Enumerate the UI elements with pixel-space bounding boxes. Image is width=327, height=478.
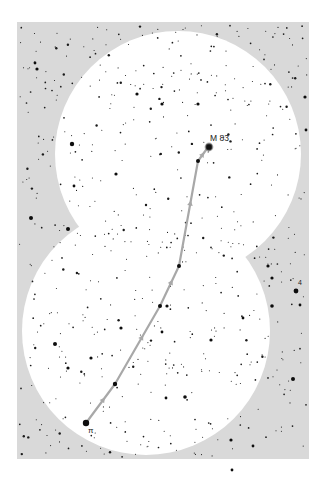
star <box>203 142 204 143</box>
star <box>180 55 182 57</box>
star <box>232 287 233 288</box>
star <box>294 234 295 235</box>
star <box>280 106 282 108</box>
star <box>43 323 44 324</box>
star <box>215 196 216 197</box>
star <box>142 347 143 348</box>
star <box>157 29 158 30</box>
star <box>94 437 95 438</box>
star <box>150 156 151 157</box>
star <box>290 279 292 281</box>
star <box>202 302 203 303</box>
star <box>201 369 202 370</box>
star <box>107 319 108 320</box>
star <box>98 96 100 98</box>
star <box>118 67 119 68</box>
star <box>274 64 275 65</box>
star <box>49 402 50 403</box>
star <box>263 155 264 156</box>
star <box>158 447 160 449</box>
star <box>245 339 247 341</box>
star <box>45 452 46 453</box>
star <box>232 448 233 449</box>
star <box>305 404 307 406</box>
star <box>149 277 150 278</box>
star <box>186 399 188 401</box>
star <box>137 359 138 360</box>
star <box>230 246 231 247</box>
star <box>149 121 151 123</box>
star <box>256 293 257 294</box>
star <box>225 90 226 91</box>
star <box>118 33 120 35</box>
star <box>259 319 260 320</box>
star <box>133 188 134 189</box>
star <box>59 441 60 442</box>
star <box>45 71 46 72</box>
star <box>59 230 60 231</box>
star <box>120 39 121 40</box>
star <box>236 374 238 376</box>
star <box>71 82 73 84</box>
star <box>261 356 263 358</box>
star <box>150 419 151 420</box>
star <box>83 320 84 321</box>
star <box>91 151 92 152</box>
bright-star <box>242 317 245 320</box>
star <box>36 198 37 199</box>
star <box>135 70 136 71</box>
star <box>30 365 32 367</box>
bright-star <box>165 397 168 400</box>
star <box>120 132 122 134</box>
star <box>40 325 42 327</box>
star <box>179 89 180 90</box>
star <box>242 139 243 140</box>
star <box>100 180 101 181</box>
star <box>39 429 41 431</box>
star <box>194 419 196 421</box>
star <box>53 136 54 137</box>
star <box>92 254 93 255</box>
star <box>201 454 202 455</box>
star <box>169 353 170 354</box>
star <box>256 148 258 150</box>
star <box>23 435 25 437</box>
star <box>183 366 184 367</box>
star <box>215 283 216 284</box>
star <box>114 211 115 212</box>
star <box>272 236 274 238</box>
star-chart: M 83 π 4 <box>0 0 327 478</box>
star <box>143 436 145 438</box>
star <box>289 119 290 120</box>
star <box>83 373 85 375</box>
bright-star <box>66 366 69 369</box>
star <box>56 288 57 289</box>
star <box>174 233 175 234</box>
bright-star <box>53 342 57 346</box>
star <box>254 257 256 259</box>
star <box>78 273 80 275</box>
star <box>63 418 64 419</box>
star <box>68 323 69 324</box>
star <box>135 85 136 86</box>
star <box>180 70 181 71</box>
star <box>289 38 290 39</box>
star <box>169 48 170 49</box>
star <box>248 104 250 106</box>
star <box>135 315 136 316</box>
star <box>80 371 82 373</box>
star <box>117 319 119 321</box>
star <box>221 206 223 208</box>
star <box>139 88 141 90</box>
star <box>182 29 183 30</box>
star <box>190 331 191 332</box>
star <box>265 338 266 339</box>
star <box>160 327 161 328</box>
star <box>47 151 48 152</box>
star <box>272 376 273 377</box>
star <box>306 74 307 75</box>
star <box>57 312 58 313</box>
star <box>86 289 87 290</box>
star <box>262 354 263 355</box>
star <box>191 392 192 393</box>
